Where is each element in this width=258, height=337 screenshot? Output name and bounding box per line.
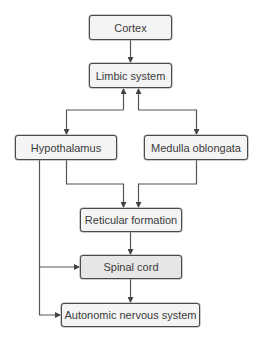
- node-autonomic-nervous-system: Autonomic nervous system: [61, 303, 200, 327]
- connector-arrows: [0, 0, 258, 337]
- node-medulla-oblongata: Medulla oblongata: [144, 135, 248, 160]
- arrow-limbic-to-hypothalamus: [67, 110, 124, 134]
- node-reticular-formation: Reticular formation: [80, 208, 182, 232]
- nervous-system-flowchart: Cortex Limbic system Hypothalamus Medull…: [0, 0, 258, 337]
- node-cortex: Cortex: [89, 15, 172, 40]
- arrow-hypothalamus-to-spinal: [40, 160, 80, 267]
- node-spinal-cord: Spinal cord: [80, 255, 182, 279]
- arrow-medulla-to-reticular: [139, 160, 197, 207]
- arrow-limbic-to-medulla: [139, 110, 197, 134]
- arrow-hypothalamus-to-reticular: [67, 160, 124, 207]
- arrow-hypothalamus-to-autonomic: [40, 267, 61, 315]
- node-hypothalamus: Hypothalamus: [15, 135, 117, 160]
- node-limbic-system: Limbic system: [89, 63, 172, 88]
